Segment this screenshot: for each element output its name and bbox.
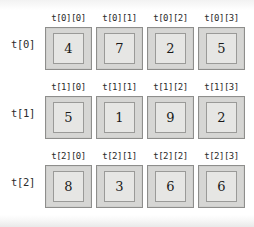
array-cell[interactable]: t[1][3] 2 — [198, 81, 245, 139]
cell-inner-box: 6 — [206, 171, 237, 202]
array-diagram: t[0] t[0][0] 4 t[0][1] 7 t[0] — [0, 0, 254, 227]
array-cell[interactable]: t[0][3] 5 — [198, 12, 245, 70]
array-cell[interactable]: t[0][0] 4 — [45, 12, 92, 70]
cell-outer-box: 6 — [147, 165, 194, 208]
row-cells: t[2][0] 8 t[2][1] 3 t[2][2] — [45, 150, 246, 208]
cell-outer-box: 5 — [198, 27, 245, 70]
cell-outer-box: 3 — [96, 165, 143, 208]
cell-value: 1 — [105, 103, 134, 132]
cell-inner-box: 7 — [104, 33, 135, 64]
array-cell[interactable]: t[2][1] 3 — [96, 150, 143, 208]
array-cell[interactable]: t[2][0] 8 — [45, 150, 92, 208]
cell-inner-box: 8 — [53, 171, 84, 202]
cell-value: 5 — [54, 103, 83, 132]
array-cell[interactable]: t[1][0] 5 — [45, 81, 92, 139]
row-cells: t[0][0] 4 t[0][1] 7 t[0][2] — [45, 12, 246, 70]
cell-value: 6 — [207, 172, 236, 201]
array-row: t[2] t[2][0] 8 t[2][1] 3 t[2] — [0, 150, 254, 208]
cell-index-label: t[2][1] — [95, 150, 144, 163]
row-label-t0: t[0] — [11, 34, 43, 54]
array-row: t[1] t[1][0] 5 t[1][1] 1 t[1] — [0, 81, 254, 139]
array-cell[interactable]: t[0][1] 7 — [96, 12, 143, 70]
row-cells: t[1][0] 5 t[1][1] 1 t[1][2] — [45, 81, 246, 139]
cell-value: 6 — [156, 172, 185, 201]
cell-inner-box: 4 — [53, 33, 84, 64]
cell-index-label: t[0][1] — [95, 12, 144, 25]
array-cell[interactable]: t[1][2] 9 — [147, 81, 194, 139]
cell-value: 8 — [54, 172, 83, 201]
cell-outer-box: 7 — [96, 27, 143, 70]
cell-outer-box: 4 — [45, 27, 92, 70]
cell-index-label: t[1][3] — [197, 81, 246, 94]
array-row: t[0] t[0][0] 4 t[0][1] 7 t[0] — [0, 12, 254, 70]
array-cell[interactable]: t[1][1] 1 — [96, 81, 143, 139]
cell-inner-box: 5 — [206, 33, 237, 64]
cell-outer-box: 5 — [45, 96, 92, 139]
cell-value: 5 — [207, 34, 236, 63]
cell-index-label: t[0][0] — [44, 12, 93, 25]
cell-value: 7 — [105, 34, 134, 63]
cell-outer-box: 8 — [45, 165, 92, 208]
array-cell[interactable]: t[2][2] 6 — [147, 150, 194, 208]
cell-value: 4 — [54, 34, 83, 63]
cell-inner-box: 1 — [104, 102, 135, 133]
row-label-t1: t[1] — [11, 103, 43, 123]
cell-index-label: t[2][0] — [44, 150, 93, 163]
cell-inner-box: 2 — [206, 102, 237, 133]
cell-inner-box: 3 — [104, 171, 135, 202]
cell-value: 3 — [105, 172, 134, 201]
row-label-t2: t[2] — [11, 172, 43, 192]
cell-value: 2 — [207, 103, 236, 132]
cell-outer-box: 2 — [147, 27, 194, 70]
cell-index-label: t[1][1] — [95, 81, 144, 94]
cell-inner-box: 2 — [155, 33, 186, 64]
cell-outer-box: 6 — [198, 165, 245, 208]
cell-outer-box: 2 — [198, 96, 245, 139]
cell-inner-box: 6 — [155, 171, 186, 202]
array-cell[interactable]: t[0][2] 2 — [147, 12, 194, 70]
cell-index-label: t[1][0] — [44, 81, 93, 94]
cell-index-label: t[2][2] — [146, 150, 195, 163]
cell-value: 2 — [156, 34, 185, 63]
array-cell[interactable]: t[2][3] 6 — [198, 150, 245, 208]
cell-outer-box: 9 — [147, 96, 194, 139]
cell-value: 9 — [156, 103, 185, 132]
cell-inner-box: 5 — [53, 102, 84, 133]
cell-index-label: t[0][3] — [197, 12, 246, 25]
cell-inner-box: 9 — [155, 102, 186, 133]
cell-outer-box: 1 — [96, 96, 143, 139]
cell-index-label: t[0][2] — [146, 12, 195, 25]
cell-index-label: t[1][2] — [146, 81, 195, 94]
cell-index-label: t[2][3] — [197, 150, 246, 163]
